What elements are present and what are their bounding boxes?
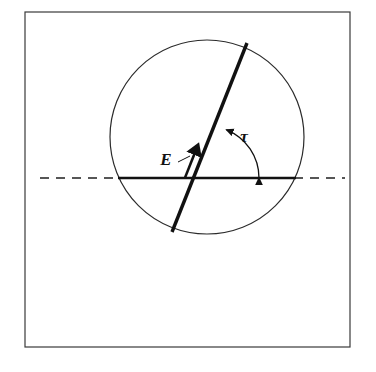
vector-label-E: E bbox=[159, 150, 171, 169]
reference-circle bbox=[110, 40, 304, 234]
outer-border bbox=[25, 12, 350, 347]
E-label-leader-line bbox=[178, 156, 190, 162]
E-vector-line bbox=[172, 43, 247, 232]
physics-diagram-polarization-angle: E τ bbox=[0, 0, 376, 372]
figure-container: E τ bbox=[0, 0, 376, 372]
angle-label-tau: τ bbox=[240, 127, 248, 146]
